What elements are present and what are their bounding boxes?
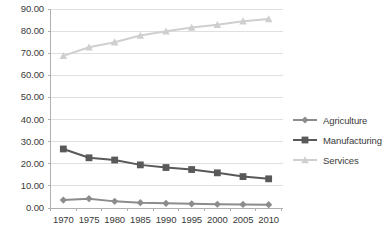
legend-item-manufacturing[interactable]: Manufacturing bbox=[292, 130, 382, 150]
y-axis-tick-label: 90.00 bbox=[0, 3, 44, 14]
data-point bbox=[214, 169, 221, 176]
y-axis-tick-label: 10.00 bbox=[0, 180, 44, 191]
y-axis-tick-label: 50.00 bbox=[0, 91, 44, 102]
data-point bbox=[111, 198, 118, 205]
data-point bbox=[214, 201, 221, 208]
data-point bbox=[188, 200, 195, 207]
data-point bbox=[239, 201, 246, 208]
data-point bbox=[188, 166, 195, 173]
y-axis-tick-label: 0.00 bbox=[0, 202, 44, 213]
y-axis-tick-label: 70.00 bbox=[0, 47, 44, 58]
legend-item-agriculture[interactable]: Agriculture bbox=[292, 110, 382, 130]
series-agriculture bbox=[60, 195, 273, 208]
data-point bbox=[163, 164, 170, 171]
gridlines bbox=[51, 9, 283, 208]
series-line bbox=[63, 19, 268, 56]
chart-legend: Agriculture Manufacturing Services bbox=[292, 110, 382, 170]
data-point bbox=[162, 200, 169, 207]
data-point bbox=[60, 146, 67, 153]
axis-lines bbox=[48, 9, 283, 208]
data-point bbox=[60, 196, 67, 203]
data-point bbox=[137, 161, 144, 168]
legend-label: Agriculture bbox=[323, 115, 367, 126]
legend-marker-triangle-icon bbox=[292, 153, 318, 167]
data-point bbox=[265, 201, 272, 208]
data-point bbox=[137, 199, 144, 206]
x-axis-tick-label: 2010 bbox=[254, 214, 284, 225]
series-services bbox=[60, 15, 273, 59]
data-point bbox=[111, 157, 118, 164]
legend-marker-diamond-icon bbox=[292, 113, 318, 127]
legend-marker-square-icon bbox=[292, 133, 318, 147]
data-point bbox=[86, 154, 93, 161]
y-axis-tick-label: 20.00 bbox=[0, 158, 44, 169]
data-point bbox=[265, 175, 272, 182]
y-axis-tick-label: 30.00 bbox=[0, 136, 44, 147]
data-series-layer bbox=[60, 15, 273, 208]
data-point bbox=[240, 173, 247, 180]
legend-item-services[interactable]: Services bbox=[292, 150, 382, 170]
y-axis-tick-label: 80.00 bbox=[0, 25, 44, 36]
data-point bbox=[85, 195, 92, 202]
y-axis-tick-label: 40.00 bbox=[0, 114, 44, 125]
legend-label: Manufacturing bbox=[323, 135, 382, 146]
y-axis-tick-label: 60.00 bbox=[0, 69, 44, 80]
legend-label: Services bbox=[323, 155, 359, 166]
